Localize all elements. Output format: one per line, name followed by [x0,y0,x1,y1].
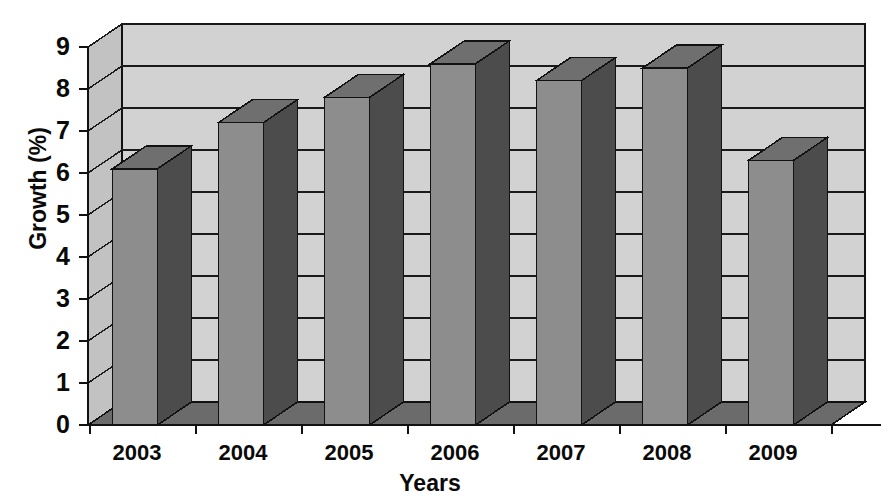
x-axis-category-label: 2008 [622,441,712,465]
bar-2003 [113,146,192,425]
x-axis-category-label: 2005 [304,441,394,465]
y-axis-title: Growth (%) [25,89,52,289]
x-axis-category-label: 2003 [92,441,182,465]
x-axis-category-label: 2004 [198,441,288,465]
bar-front-face [431,64,476,425]
y-axis-tick-label: 9 [40,34,70,59]
bar-side-face [158,146,192,425]
bar-side-face [476,41,510,425]
bar-front-face [219,123,264,425]
bar-front-face [325,97,370,425]
y-axis-tick-label: 2 [40,328,70,353]
bar-front-face [749,160,794,425]
y-axis-tick-label: 0 [40,412,70,437]
bar-front-face [537,81,582,425]
bar-2005 [325,74,404,425]
bar-2008 [643,45,722,425]
bar-side-face [794,137,828,425]
bar-2004 [219,100,298,425]
y-axis-tick-label: 3 [40,286,70,311]
bar-2006 [431,41,510,425]
x-axis-category-label: 2006 [410,441,500,465]
x-axis-category-label: 2007 [516,441,606,465]
chart-plot-area [0,0,881,504]
bar-front-face [113,169,158,425]
bar-side-face [688,45,722,425]
y-axis-tick-label: 1 [40,370,70,395]
bar-side-face [582,58,616,425]
x-axis-title: Years [330,470,530,497]
bar-side-face [264,100,298,425]
x-axis-category-label: 2009 [728,441,818,465]
bar-2007 [537,58,616,425]
bar-2009 [749,137,828,425]
bar-chart: 0123456789 2003200420052006200720082009 … [0,0,881,504]
bar-side-face [370,74,404,425]
bar-front-face [643,68,688,425]
